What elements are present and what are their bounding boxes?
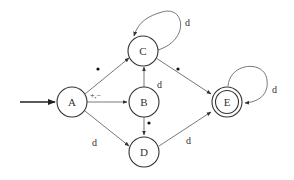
state-b-label: B: [140, 96, 147, 108]
edge-a-to-c: [85, 58, 129, 94]
state-e-accepting: E: [212, 87, 242, 117]
automaton-diagram: A B C D E +,− d d d d d: [0, 0, 294, 180]
state-e-label: E: [224, 96, 231, 108]
label-c-to-e-dot: [176, 67, 179, 70]
state-c-label: C: [139, 45, 146, 57]
state-a: A: [57, 87, 87, 117]
label-a-to-b: +,−: [90, 91, 102, 100]
edge-d-to-e: [159, 112, 211, 146]
label-b-to-d-dot: [147, 121, 150, 124]
label-b-to-c: d: [157, 79, 162, 90]
state-a-label: A: [68, 96, 76, 108]
label-a-to-c-dot: [96, 67, 99, 70]
label-d-to-e: d: [186, 135, 191, 146]
label-c-loop: d: [185, 17, 190, 28]
state-d-label: D: [140, 146, 148, 158]
label-e-loop: d: [272, 84, 277, 95]
label-a-to-d: d: [92, 137, 97, 148]
state-b: B: [129, 87, 159, 117]
state-d: D: [129, 137, 159, 167]
state-c: C: [128, 36, 158, 66]
edge-c-to-e: [156, 58, 211, 94]
